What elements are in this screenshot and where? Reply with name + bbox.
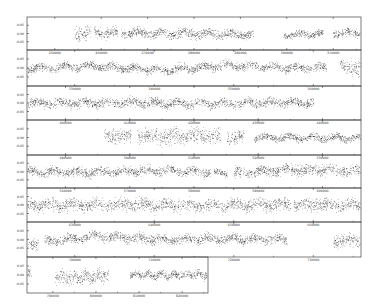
y-tick-label: -0.05 — [16, 212, 24, 216]
x-tick-label: 360000 — [307, 87, 319, 91]
data-points — [28, 196, 360, 216]
x-tick-label: 600000 — [316, 189, 328, 193]
x-tick-label: 290000 — [234, 51, 246, 55]
y-tick-label: 0.00 — [17, 170, 24, 174]
data-points — [28, 96, 314, 112]
x-tick-label: 570000 — [124, 189, 136, 193]
y-tick-label: 0.05 — [17, 195, 24, 199]
x-tick-label: 260000 — [95, 51, 107, 55]
y-tick-label: -0.05 — [16, 144, 24, 148]
y-tick-label: -0.05 — [16, 178, 24, 182]
x-tick-label: 270000 — [142, 51, 154, 55]
y-tick-label: 0.05 — [17, 127, 24, 131]
panel-frame — [27, 50, 361, 86]
y-tick-label: 0.05 — [17, 93, 24, 97]
x-tick-label: 710000 — [148, 258, 160, 262]
panel-frame — [27, 17, 361, 50]
x-tick-label: 810000 — [133, 294, 145, 298]
y-tick-label: 0.05 — [17, 23, 24, 27]
x-tick-label: 300000 — [281, 51, 293, 55]
x-tick-label: 790000 — [47, 294, 59, 298]
x-tick-label: 340000 — [148, 87, 160, 91]
x-tick-label: 330000 — [69, 87, 81, 91]
y-tick-label: -0.05 — [16, 246, 24, 250]
y-tick-label: 0.00 — [17, 273, 24, 277]
panel-frame — [27, 86, 361, 120]
x-tick-label: 250000 — [49, 51, 61, 55]
x-tick-label: 350000 — [228, 87, 240, 91]
data-points — [28, 163, 360, 179]
panel-frame — [27, 120, 361, 155]
data-points — [28, 58, 360, 77]
y-tick-label: 0.05 — [17, 264, 24, 268]
y-tick-label: -0.05 — [16, 110, 24, 114]
y-tick-label: 0.05 — [17, 229, 24, 233]
panel-2: 0.050.00-0.05330000340000350000360000 — [16, 50, 361, 91]
y-tick-label: 0.05 — [17, 161, 24, 165]
y-tick-label: 0.00 — [17, 238, 24, 242]
y-tick-label: 0.00 — [17, 101, 24, 105]
x-tick-label: 720000 — [228, 258, 240, 262]
y-tick-label: -0.05 — [16, 75, 24, 79]
panel-6: 0.050.00-0.05630000640000650000660000 — [16, 188, 361, 227]
data-points — [104, 126, 360, 147]
x-tick-label: 590000 — [252, 189, 264, 193]
x-tick-label: 310000 — [327, 51, 339, 55]
data-points — [28, 230, 360, 251]
data-points — [28, 267, 207, 287]
panel-4: 0.050.00-0.05490000500000510000520000530… — [16, 120, 361, 160]
y-tick-label: 0.00 — [17, 32, 24, 36]
data-points — [75, 25, 361, 41]
y-tick-label: -0.05 — [16, 282, 24, 286]
x-tick-label: 730000 — [307, 258, 319, 262]
panels-group: 0.050.00-0.05250000260000270000280000290… — [16, 17, 361, 298]
y-tick-label: 0.05 — [17, 57, 24, 61]
panel-1: 0.050.00-0.05250000260000270000280000290… — [16, 17, 361, 55]
x-tick-label: 280000 — [188, 51, 200, 55]
panel-5: 0.050.00-0.05560000570000580000590000600… — [16, 155, 361, 193]
y-tick-label: 0.00 — [17, 66, 24, 70]
panel-frame — [27, 257, 208, 293]
panel-7: 0.050.00-0.05700000710000720000730000 — [16, 222, 361, 262]
x-tick-label: 560000 — [59, 189, 71, 193]
panel-frame — [27, 188, 361, 222]
panel-3: 0.050.00-0.05400000410000420000430000440… — [16, 86, 361, 125]
panel-8: 0.050.00-0.05790000800000810000820000 — [16, 257, 208, 298]
x-tick-label: 820000 — [176, 294, 188, 298]
y-tick-label: 0.00 — [17, 203, 24, 207]
y-tick-label: 0.00 — [17, 136, 24, 140]
x-tick-label: 580000 — [188, 189, 200, 193]
y-tick-label: -0.05 — [16, 40, 24, 44]
light-curve-figure: 0.050.00-0.05250000260000270000280000290… — [0, 0, 379, 307]
x-tick-label: 800000 — [90, 294, 102, 298]
x-tick-label: 700000 — [69, 258, 81, 262]
